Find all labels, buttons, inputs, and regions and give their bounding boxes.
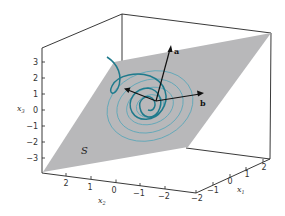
svg-text:−3: −3 xyxy=(26,154,38,163)
x2-axis-label: x2 xyxy=(98,196,106,206)
svg-text:2: 2 xyxy=(63,179,68,188)
3d-plot-figure: a b S 3 2 1 0 −1 −2 −3 x3 2 1 xyxy=(0,0,285,216)
plane-label: S xyxy=(81,145,88,156)
svg-text:1: 1 xyxy=(244,170,249,179)
svg-text:−1: −1 xyxy=(133,189,145,198)
vector-a-label: a xyxy=(174,46,179,56)
svg-text:−2: −2 xyxy=(158,192,170,201)
x3-axis-label: x3 xyxy=(17,104,25,114)
svg-text:1: 1 xyxy=(33,90,38,99)
svg-text:−2: −2 xyxy=(26,138,38,147)
svg-text:0: 0 xyxy=(227,177,232,186)
svg-text:2: 2 xyxy=(261,163,266,172)
svg-text:0: 0 xyxy=(33,106,38,115)
svg-text:−1: −1 xyxy=(207,186,219,195)
svg-text:1: 1 xyxy=(87,183,92,192)
plane-s xyxy=(43,33,271,172)
svg-text:3: 3 xyxy=(33,58,38,67)
x3-tick-labels: 3 2 1 0 −1 −2 −3 xyxy=(26,58,38,163)
svg-text:0: 0 xyxy=(111,186,116,195)
arrowhead-icon xyxy=(168,45,173,52)
svg-text:−2: −2 xyxy=(191,194,203,203)
x1-axis-label: x1 xyxy=(237,185,245,195)
x1-tick-labels: −2 −1 0 1 2 xyxy=(191,163,266,203)
vector-b-label: b xyxy=(200,98,206,108)
svg-text:−1: −1 xyxy=(26,122,38,131)
svg-text:2: 2 xyxy=(33,74,38,83)
